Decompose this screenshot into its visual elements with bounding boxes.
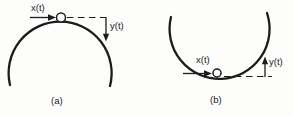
panel-b xyxy=(170,13,272,79)
x-label-a: x(t) xyxy=(31,3,45,13)
y-label-b: y(t) xyxy=(269,57,283,67)
y-arrowhead-a xyxy=(103,34,109,42)
bowl-curve xyxy=(170,13,270,79)
caption-a: (a) xyxy=(51,96,63,106)
caption-b: (b) xyxy=(210,95,222,105)
x-arrowhead-a xyxy=(48,14,56,20)
diagram-canvas xyxy=(0,0,293,116)
ball-a xyxy=(57,13,66,22)
dome-curve xyxy=(9,22,112,86)
panel-a xyxy=(9,13,112,86)
x-label-b: x(t) xyxy=(196,55,210,65)
x-arrowhead-b xyxy=(204,70,212,76)
stability-diagram: x(t) y(t) (a) x(t) y(t) (b) xyxy=(0,0,293,116)
y-label-a: y(t) xyxy=(110,21,124,31)
ball-b xyxy=(213,69,221,77)
y-arrowhead-b xyxy=(262,57,268,65)
